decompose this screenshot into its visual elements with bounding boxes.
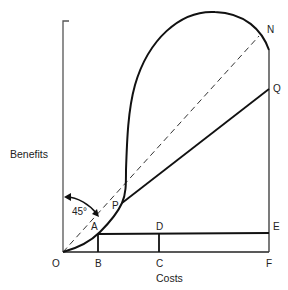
point-e-label: E: [273, 222, 280, 232]
point-d-label: D: [156, 222, 163, 232]
angle-label: 45°: [72, 207, 87, 217]
dashed-45-degree-line: [63, 36, 259, 252]
point-b-label: B: [95, 259, 102, 269]
point-f-label: F: [266, 259, 272, 269]
line-pq: [122, 89, 269, 203]
line-ae: [98, 233, 269, 234]
y-axis: [63, 21, 69, 252]
benefit-curve: [63, 12, 269, 252]
arrowhead-left-icon: [64, 193, 71, 201]
cost-benefit-diagram: [0, 0, 288, 290]
point-o-label: O: [52, 259, 60, 269]
point-p-label: P: [112, 201, 119, 211]
point-a-label: A: [91, 222, 98, 232]
point-q-label: Q: [273, 84, 281, 94]
y-axis-label: Benefits: [10, 149, 48, 159]
point-c-label: C: [156, 259, 163, 269]
point-n-label: N: [267, 25, 274, 35]
x-axis-label: Costs: [156, 273, 183, 283]
